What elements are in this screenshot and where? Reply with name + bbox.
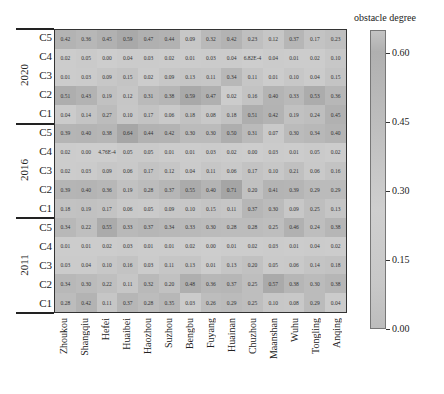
heatmap-cell: 0.03 bbox=[180, 293, 201, 312]
heatmap-cell: 0.12 bbox=[117, 86, 138, 105]
heatmap-cell: 0.02 bbox=[221, 86, 242, 105]
heatmap-cell: 0.01 bbox=[284, 143, 305, 162]
heatmap-cell: 0.15 bbox=[201, 199, 222, 218]
heatmap-cell: 0.10 bbox=[180, 199, 201, 218]
colorbar-tick: 0.30 bbox=[386, 185, 410, 196]
heatmap-cell: 0.22 bbox=[97, 274, 118, 293]
heatmap-cell: 0.10 bbox=[117, 105, 138, 124]
heatmap-cell: 0.39 bbox=[55, 124, 76, 143]
heatmap-cell: 0.20 bbox=[159, 274, 180, 293]
heatmap-cell: 0.19 bbox=[97, 86, 118, 105]
heatmap-cell: 0.64 bbox=[117, 124, 138, 143]
heatmap-cell: 0.28 bbox=[221, 218, 242, 237]
colorbar-tick: 0.60 bbox=[386, 47, 410, 58]
heatmap-cell: 0.13 bbox=[180, 256, 201, 275]
heatmap-cell: 0.28 bbox=[138, 293, 159, 312]
heatmap-cell: 0.10 bbox=[97, 256, 118, 275]
y-tick-label: C3 bbox=[36, 165, 52, 176]
heatmap-cell: 0.40 bbox=[263, 86, 284, 105]
heatmap-cell: 0.42 bbox=[221, 30, 242, 49]
heatmap-cell: 0.29 bbox=[304, 180, 325, 199]
heatmap-cell: 0.44 bbox=[159, 30, 180, 49]
heatmap-cell: 0.38 bbox=[284, 274, 305, 293]
heatmap-cell: 4.76E-4 bbox=[97, 143, 118, 162]
x-tick-label: Tongling bbox=[310, 318, 321, 354]
heatmap-cell: 0.02 bbox=[325, 143, 346, 162]
heatmap-cell: 0.45 bbox=[97, 30, 118, 49]
heatmap-cell: 0.50 bbox=[221, 124, 242, 143]
year-group-label: 2016 bbox=[18, 150, 30, 190]
heatmap-cell: 0.19 bbox=[117, 180, 138, 199]
x-tick-label: Fuyang bbox=[205, 318, 216, 348]
heatmap-cell: 0.04 bbox=[304, 237, 325, 256]
heatmap-cell: 0.34 bbox=[304, 124, 325, 143]
heatmap-cell: 0.31 bbox=[242, 124, 263, 143]
heatmap-cell: 0.04 bbox=[304, 68, 325, 87]
heatmap-cell: 0.22 bbox=[76, 218, 97, 237]
heatmap-cell: 0.19 bbox=[284, 105, 305, 124]
heatmap-cell: 0.45 bbox=[325, 105, 346, 124]
heatmap-cell: 0.10 bbox=[263, 293, 284, 312]
heatmap-cell: 0.36 bbox=[97, 180, 118, 199]
y-tick-label: C4 bbox=[36, 241, 52, 252]
y-tick-label: C2 bbox=[36, 279, 52, 290]
heatmap-cell: 0.06 bbox=[221, 162, 242, 181]
heatmap-cell: 0.06 bbox=[159, 105, 180, 124]
y-tick-label: C4 bbox=[36, 51, 52, 62]
heatmap-cell: 0.04 bbox=[263, 49, 284, 68]
heatmap-cell: 0.09 bbox=[97, 162, 118, 181]
heatmap-cell: 0.30 bbox=[263, 199, 284, 218]
heatmap-cell: 0.10 bbox=[284, 68, 305, 87]
heatmap-cell: 0.21 bbox=[284, 162, 305, 181]
heatmap-cell: 0.00 bbox=[201, 237, 222, 256]
heatmap-cell: 0.25 bbox=[242, 274, 263, 293]
heatmap-cell: 0.39 bbox=[55, 180, 76, 199]
y-tick-label: C4 bbox=[36, 146, 52, 157]
heatmap-cell: 0.33 bbox=[284, 86, 305, 105]
heatmap-cell: 0.04 bbox=[117, 49, 138, 68]
heatmap-grid: 0.420.360.450.590.470.440.090.320.420.23… bbox=[54, 29, 347, 313]
heatmap-cell: 0.30 bbox=[284, 124, 305, 143]
heatmap-cell: 0.48 bbox=[180, 274, 201, 293]
heatmap-cell: 0.37 bbox=[221, 274, 242, 293]
x-tick-label: Huainan bbox=[226, 318, 237, 352]
heatmap-cell: 0.37 bbox=[242, 199, 263, 218]
heatmap-cell: 0.01 bbox=[76, 237, 97, 256]
heatmap-cell: 0.09 bbox=[284, 199, 305, 218]
heatmap-cell: 0.42 bbox=[55, 30, 76, 49]
year-group-label: 2011 bbox=[18, 245, 30, 285]
heatmap-cell: 0.47 bbox=[138, 30, 159, 49]
year-group-label: 2020 bbox=[18, 55, 30, 95]
heatmap-cell: 0.36 bbox=[76, 30, 97, 49]
heatmap-cell: 0.33 bbox=[180, 218, 201, 237]
heatmap-cell: 0.37 bbox=[117, 293, 138, 312]
heatmap-cell: 0.40 bbox=[76, 180, 97, 199]
heatmap-cell: 0.29 bbox=[325, 180, 346, 199]
colorbar bbox=[370, 30, 386, 329]
heatmap-cell: 0.02 bbox=[304, 49, 325, 68]
heatmap-cell: 0.03 bbox=[201, 143, 222, 162]
heatmap-cell: 0.36 bbox=[201, 274, 222, 293]
heatmap-cell: 0.31 bbox=[138, 86, 159, 105]
heatmap-cell: 0.05 bbox=[76, 49, 97, 68]
y-tick-label: C2 bbox=[36, 184, 52, 195]
x-tick-label: Anqing bbox=[331, 318, 342, 348]
heatmap-cell: 0.34 bbox=[55, 274, 76, 293]
heatmap-cell: 0.42 bbox=[263, 105, 284, 124]
heatmap-cell: 0.40 bbox=[76, 124, 97, 143]
heatmap-cell: 0.24 bbox=[304, 218, 325, 237]
heatmap-cell: 0.57 bbox=[263, 274, 284, 293]
heatmap-cell: 0.38 bbox=[325, 218, 346, 237]
heatmap-cell: 0.17 bbox=[97, 199, 118, 218]
y-tick-label: C1 bbox=[36, 298, 52, 309]
x-tick-label: Wuhu bbox=[289, 318, 300, 342]
colorbar-title: obstacle degree bbox=[354, 12, 416, 23]
heatmap-cell: 0.36 bbox=[325, 86, 346, 105]
heatmap-cell: 0.02 bbox=[97, 237, 118, 256]
heatmap-cell: 0.11 bbox=[221, 199, 242, 218]
heatmap-cell: 0.26 bbox=[201, 293, 222, 312]
heatmap-cell: 0.30 bbox=[180, 124, 201, 143]
heatmap-cell: 0.30 bbox=[201, 124, 222, 143]
heatmap-cell: 0.32 bbox=[201, 30, 222, 49]
heatmap-cell: 0.03 bbox=[76, 162, 97, 181]
